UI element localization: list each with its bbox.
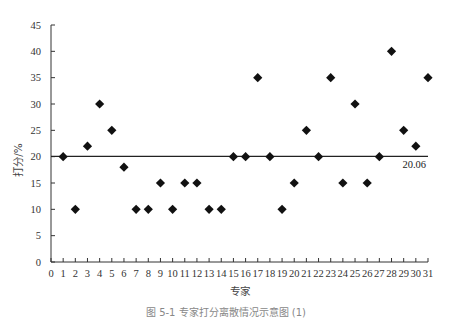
- data-point-marker: [241, 152, 250, 161]
- x-tick-label: 18: [265, 268, 276, 279]
- figure-caption: 图 5-1 专家打分离散情况示意图 (1): [0, 304, 452, 319]
- x-axis-title: 专家: [230, 285, 251, 297]
- x-tick-label: 9: [158, 268, 163, 279]
- data-point-marker: [375, 152, 384, 161]
- x-tick-label: 17: [252, 268, 263, 279]
- x-tick-label: 23: [325, 268, 336, 279]
- y-axis: 051015202530354045: [31, 20, 56, 268]
- y-tick-label: 45: [31, 20, 42, 31]
- data-point-marker: [399, 126, 408, 135]
- x-tick-label: 7: [134, 268, 139, 279]
- x-tick-label: 22: [313, 268, 324, 279]
- data-point-marker: [95, 99, 104, 108]
- x-tick-label: 25: [350, 268, 361, 279]
- data-point-marker: [168, 205, 177, 214]
- data-point-marker: [229, 152, 238, 161]
- x-tick-label: 30: [411, 268, 422, 279]
- y-tick-label: 30: [31, 99, 42, 110]
- x-tick-label: 10: [167, 268, 178, 279]
- x-tick-label: 6: [121, 268, 126, 279]
- y-tick-label: 35: [31, 72, 42, 83]
- data-point-marker: [314, 152, 323, 161]
- data-point-marker: [156, 178, 165, 187]
- data-point-marker: [83, 142, 92, 151]
- data-point-marker: [132, 205, 141, 214]
- x-tick-label: 21: [301, 268, 312, 279]
- x-tick-label: 0: [48, 268, 53, 279]
- x-tick-label: 14: [216, 268, 227, 279]
- x-tick-label: 5: [109, 268, 114, 279]
- data-point-marker: [253, 73, 262, 82]
- data-point-marker: [71, 205, 80, 214]
- x-tick-label: 31: [423, 268, 434, 279]
- data-point-marker: [350, 99, 359, 108]
- x-tick-label: 20: [289, 268, 300, 279]
- x-tick-label: 3: [85, 268, 90, 279]
- x-tick-label: 26: [362, 268, 373, 279]
- data-point-marker: [387, 47, 396, 56]
- data-point-marker: [277, 205, 286, 214]
- y-tick-label: 20: [31, 151, 42, 162]
- data-point-marker: [338, 178, 347, 187]
- x-tick-label: 4: [97, 268, 103, 279]
- y-tick-label: 15: [31, 178, 42, 189]
- data-point-marker: [144, 205, 153, 214]
- data-point-marker: [107, 126, 116, 135]
- x-tick-label: 15: [228, 268, 239, 279]
- data-point-marker: [192, 178, 201, 187]
- data-point-marker: [363, 178, 372, 187]
- data-point-marker: [290, 178, 299, 187]
- data-point-marker: [180, 178, 189, 187]
- x-tick-label: 27: [374, 268, 385, 279]
- data-point-marker: [326, 73, 335, 82]
- data-point-marker: [204, 205, 213, 214]
- data-point-marker: [265, 152, 274, 161]
- x-axis: 0123456789101112131415161718192021222324…: [48, 258, 433, 279]
- x-tick-label: 8: [146, 268, 151, 279]
- x-tick-label: 19: [277, 268, 288, 279]
- y-tick-label: 40: [31, 46, 42, 57]
- y-tick-label: 25: [31, 125, 42, 136]
- mean-reference-line: 20.06: [51, 156, 428, 170]
- data-point-marker: [423, 73, 432, 82]
- y-tick-label: 5: [36, 230, 41, 241]
- x-tick-label: 1: [61, 268, 66, 279]
- x-tick-label: 16: [240, 268, 251, 279]
- data-point-marker: [59, 152, 68, 161]
- y-axis-title: 打分/%: [12, 143, 24, 177]
- data-point-marker: [411, 142, 420, 151]
- x-tick-label: 11: [180, 268, 190, 279]
- x-tick-label: 12: [192, 268, 203, 279]
- data-point-marker: [119, 163, 128, 172]
- reference-line-label: 20.06: [402, 159, 426, 170]
- x-tick-label: 28: [386, 268, 397, 279]
- x-tick-label: 29: [398, 268, 409, 279]
- y-tick-label: 10: [31, 204, 42, 215]
- data-point-marker: [302, 126, 311, 135]
- x-tick-label: 2: [73, 268, 78, 279]
- x-tick-label: 24: [338, 268, 349, 279]
- data-points: [59, 47, 433, 214]
- y-tick-label: 0: [36, 257, 41, 268]
- data-point-marker: [217, 205, 226, 214]
- x-tick-label: 13: [204, 268, 215, 279]
